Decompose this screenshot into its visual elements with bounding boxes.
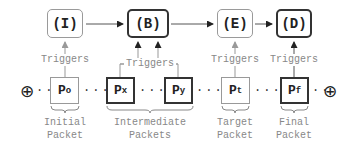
trigger-label-b: Triggers: [124, 58, 176, 69]
dots: ···: [196, 84, 224, 98]
trigger-label-i: Triggers: [41, 54, 89, 65]
packet-px: Px: [106, 77, 135, 104]
state-i: (I): [47, 9, 83, 38]
caption-initial-packet: InitialPacket: [40, 116, 90, 142]
bracket-final: [281, 106, 308, 113]
trigger-label-e: Triggers: [211, 54, 259, 65]
state-d: (D): [276, 9, 312, 38]
caption-target-packet: TargetPacket: [210, 116, 260, 142]
packet-py: Py: [164, 77, 193, 104]
packet-pt: Pt: [221, 77, 250, 104]
bracket-target: [222, 106, 249, 113]
trigger-label-d: Triggers: [270, 54, 318, 65]
packet-pf: Pf: [280, 77, 309, 104]
start-endpoint-icon: ⊕: [20, 81, 34, 101]
caption-final-packet: FinalPacket: [269, 116, 319, 142]
dots: ···: [139, 84, 167, 98]
bracket-initial: [51, 106, 79, 113]
state-b: (B): [127, 9, 169, 38]
dots: ···: [254, 84, 282, 98]
caption-intermediate-packets: IntermediatePackets: [110, 116, 190, 142]
bracket-intermediate: [107, 106, 193, 113]
state-e: (E): [217, 9, 253, 38]
end-endpoint-icon: ⊕: [323, 81, 337, 101]
packet-po: Po: [50, 77, 79, 104]
